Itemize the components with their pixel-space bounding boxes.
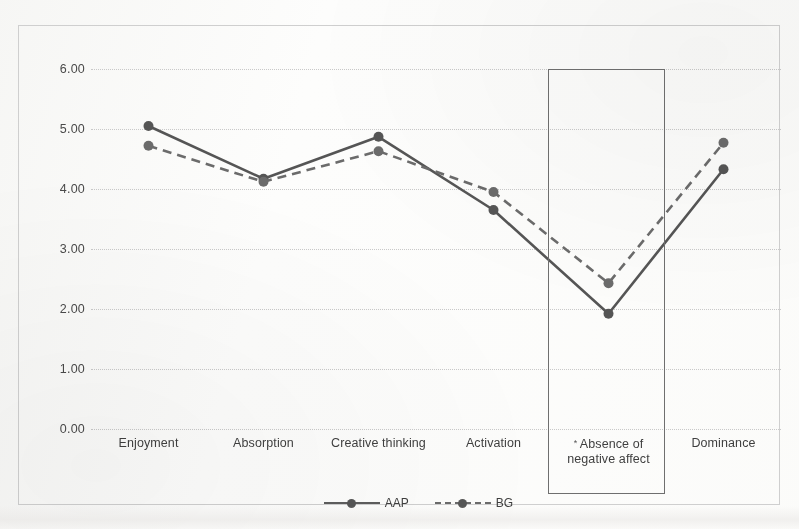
- x-axis-tick-label: Dominance: [659, 436, 789, 451]
- plot-area: [91, 69, 781, 429]
- x-axis-tick-label: Enjoyment: [84, 436, 214, 451]
- legend-item-bg: BG: [435, 496, 513, 510]
- data-point-marker: [374, 146, 384, 156]
- series-lines: [91, 69, 781, 429]
- y-axis-tick-label: 2.00: [39, 302, 85, 316]
- y-axis-tick-label: 0.00: [39, 422, 85, 436]
- data-point-marker: [144, 121, 154, 131]
- x-axis-tick-label: * Absence ofnegative affect: [544, 436, 674, 467]
- legend-line-dashed-icon: [435, 497, 491, 509]
- chart-legend: AAP BG: [19, 496, 799, 510]
- y-axis-tick-label: 1.00: [39, 362, 85, 376]
- legend-label-bg: BG: [496, 496, 513, 510]
- legend-item-aap: AAP: [324, 496, 409, 510]
- gridline: [91, 429, 781, 430]
- legend-label-aap: AAP: [385, 496, 409, 510]
- y-axis-tick-label: 3.00: [39, 242, 85, 256]
- y-axis-tick-label: 4.00: [39, 182, 85, 196]
- series-line-aap: [149, 126, 724, 314]
- data-point-marker: [259, 177, 269, 187]
- data-point-marker: [719, 138, 729, 148]
- x-axis-tick-label: Activation: [429, 436, 559, 451]
- data-point-marker: [489, 187, 499, 197]
- data-point-marker: [489, 205, 499, 215]
- chart-frame: 0.001.002.003.004.005.006.00 EnjoymentAb…: [18, 25, 780, 505]
- data-point-marker: [604, 309, 614, 319]
- data-point-marker: [374, 132, 384, 142]
- legend-line-solid-icon: [324, 497, 380, 509]
- series-line-bg: [149, 143, 724, 283]
- significance-asterisk: *: [574, 438, 580, 448]
- x-axis-tick-label: Absorption: [199, 436, 329, 451]
- y-axis: 0.001.002.003.004.005.006.00: [35, 69, 85, 429]
- data-point-marker: [604, 278, 614, 288]
- data-point-marker: [719, 164, 729, 174]
- y-axis-tick-label: 5.00: [39, 122, 85, 136]
- x-axis-tick-label: Creative thinking: [314, 436, 444, 451]
- y-axis-tick-label: 6.00: [39, 62, 85, 76]
- data-point-marker: [144, 141, 154, 151]
- x-axis: EnjoymentAbsorptionCreative thinkingActi…: [91, 436, 781, 486]
